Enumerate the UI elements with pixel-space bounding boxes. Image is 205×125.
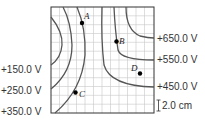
point-c	[73, 90, 77, 94]
right-label-550: +550.0 V	[157, 55, 197, 65]
point-b-label: B	[119, 37, 125, 46]
left-label-350: +350.0 V	[1, 107, 41, 117]
point-d-label: D	[131, 64, 138, 73]
point-c-label: C	[79, 90, 85, 99]
point-a	[80, 21, 84, 25]
grid	[51, 7, 154, 113]
scale-label: 2.0 cm	[162, 101, 192, 111]
point-d	[138, 71, 142, 75]
right-label-650: +650.0 V	[157, 34, 197, 44]
point-a-label: A	[84, 12, 90, 21]
right-label-450: +450.0 V	[157, 82, 197, 92]
left-label-250: +250.0 V	[1, 86, 41, 96]
left-label-150: +150.0 V	[1, 65, 41, 75]
scale-marker	[157, 100, 161, 111]
